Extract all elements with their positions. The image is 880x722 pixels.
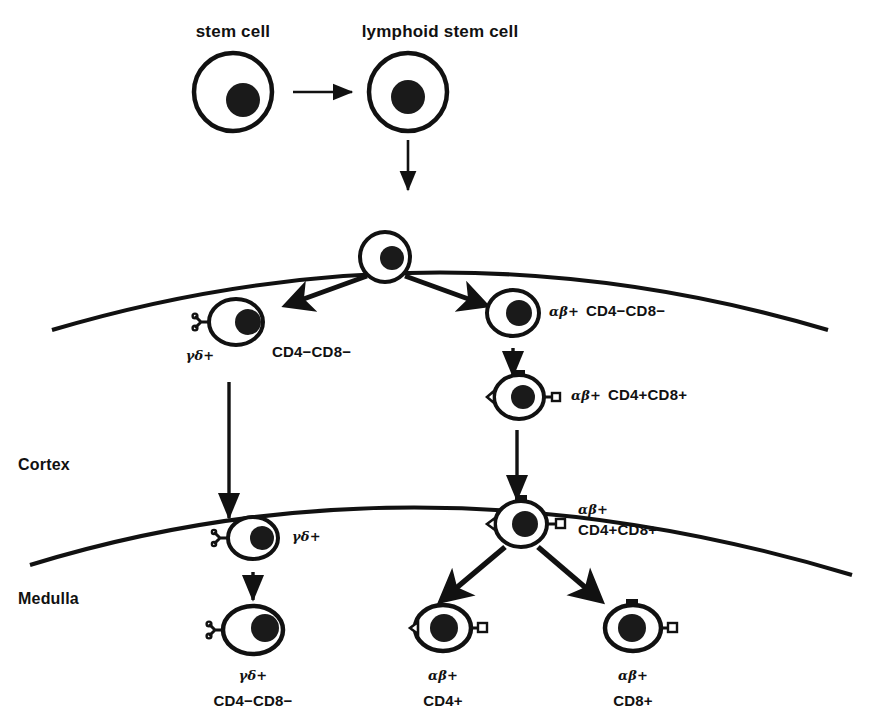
label-cortex-gd-phenotype: CD4−CD8− xyxy=(272,343,351,360)
label-medulla-ab-dp-phenotype: CD4+CD8+ xyxy=(578,521,657,538)
label-stem-cell: stem cell xyxy=(196,22,271,42)
label-cortex-ab-dn-phenotype: CD4−CD8− xyxy=(586,302,665,319)
label-cortex-ab-dp-phenotype: CD4+CD8+ xyxy=(608,386,687,403)
cell-medulla-ab-double-positive xyxy=(487,495,565,547)
cell-lymphoid-stem-cell xyxy=(369,53,447,131)
label-lymphoid-stem-cell: lymphoid stem cell xyxy=(362,22,519,42)
thymus-capsule-boundary xyxy=(52,273,828,331)
label-medulla-ab-dp-receptor: αβ+ xyxy=(578,502,608,517)
cell-thymic-progenitor xyxy=(360,232,410,282)
cell-final-gamma-delta xyxy=(207,606,283,654)
label-cortex-gd-receptor: γδ+ xyxy=(186,348,215,363)
cortex-medulla-boundary xyxy=(30,507,852,575)
cell-final-cd4 xyxy=(410,605,487,651)
arrow-progenitor-to-ab xyxy=(405,276,485,305)
thymus-t-cell-development-diagram: stem cell lymphoid stem cell Cortex Medu… xyxy=(0,0,880,722)
cell-cortex-ab-double-positive xyxy=(487,370,560,419)
label-final-cd8-phenotype: CD8+ xyxy=(613,692,653,709)
label-region-medulla: Medulla xyxy=(18,590,79,608)
cell-cortex-ab-double-negative xyxy=(487,290,539,336)
arrow-dp-to-cd4 xyxy=(442,547,505,600)
label-final-gd-receptor: γδ+ xyxy=(239,668,268,683)
cell-stem-cell xyxy=(194,53,272,131)
label-medulla-gd-receptor: γδ+ xyxy=(292,529,321,544)
label-final-cd4-receptor: αβ+ xyxy=(428,668,458,683)
label-final-cd8-receptor: αβ+ xyxy=(618,668,648,683)
label-cortex-ab-dn-receptor: αβ+ xyxy=(549,304,579,319)
diagram-canvas xyxy=(0,0,880,722)
cell-final-cd8 xyxy=(605,599,677,651)
label-final-gd-phenotype: CD4−CD8− xyxy=(213,692,292,709)
cell-cortex-gamma-delta xyxy=(193,299,263,345)
label-cortex-ab-dp-receptor: αβ+ xyxy=(571,388,601,403)
label-final-cd4-phenotype: CD4+ xyxy=(423,692,463,709)
arrow-dp-to-cd8 xyxy=(538,547,600,600)
label-region-cortex: Cortex xyxy=(18,456,70,474)
